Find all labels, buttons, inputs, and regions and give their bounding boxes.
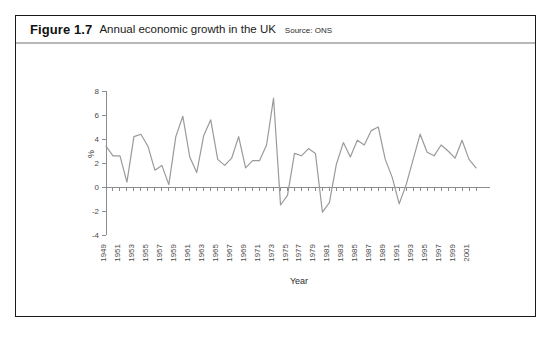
x-tick-label: 1967: [225, 243, 234, 261]
figure-source: Source: ONS: [285, 26, 332, 35]
y-tick-label: -4: [92, 231, 100, 240]
x-tick-label: 1957: [155, 243, 164, 261]
x-tick-label: 1977: [294, 243, 303, 261]
y-tick-label: 0: [95, 183, 100, 192]
data-series: [106, 98, 476, 212]
x-tick-label: 1979: [308, 243, 317, 261]
y-axis-title: %: [86, 150, 96, 158]
x-tick-label: 1949: [99, 243, 108, 261]
x-tick-label: 1975: [281, 243, 290, 261]
figure-panel: Figure 1.7 Annual economic growth in the…: [15, 15, 536, 317]
y-tick-label: 6: [95, 111, 100, 120]
x-axis: 1949195119531955195719591961196319651967…: [99, 187, 490, 262]
x-tick-label: 1995: [420, 243, 429, 261]
growth-series-line: [106, 98, 476, 212]
x-tick-label: 1961: [183, 243, 192, 261]
x-tick-label: 1951: [113, 243, 122, 261]
x-tick-label: 2001: [462, 243, 471, 261]
x-tick-label: 1999: [448, 243, 457, 261]
x-tick-label: 1971: [253, 243, 262, 261]
x-tick-label: 1981: [322, 243, 331, 261]
chart-plot-area: -4-202468 194919511953195519571959196119…: [16, 44, 535, 316]
line-chart: -4-202468 194919511953195519571959196119…: [16, 44, 535, 316]
x-tick-label: 1955: [141, 243, 150, 261]
x-tick-label: 1963: [197, 243, 206, 261]
x-tick-label: 1983: [336, 243, 345, 261]
x-tick-label: 1969: [239, 243, 248, 261]
x-axis-title: Year: [290, 276, 308, 286]
y-tick-label: 2: [95, 159, 100, 168]
figure-header: Figure 1.7 Annual economic growth in the…: [16, 16, 535, 44]
figure-title: Annual economic growth in the UK: [99, 23, 275, 35]
x-tick-label: 1965: [211, 243, 220, 261]
x-tick-label: 1989: [378, 243, 387, 261]
x-tick-label: 1993: [406, 243, 415, 261]
x-tick-label: 1997: [434, 243, 443, 261]
y-axis: -4-202468: [92, 87, 106, 240]
x-tick-label: 1953: [127, 243, 136, 261]
x-tick-label: 1991: [392, 243, 401, 261]
x-tick-label: 1985: [350, 243, 359, 261]
x-tick-label: 1987: [364, 243, 373, 261]
x-tick-label: 1959: [169, 243, 178, 261]
y-tick-label: 4: [95, 135, 100, 144]
y-tick-label: 8: [95, 87, 100, 96]
figure-number: Figure 1.7: [30, 22, 92, 37]
y-tick-label: -2: [92, 207, 100, 216]
x-tick-label: 1973: [267, 243, 276, 261]
